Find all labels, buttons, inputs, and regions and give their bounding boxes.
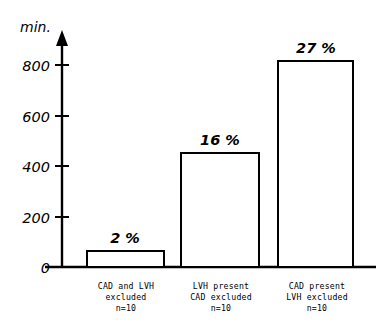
chart-container: min. 800 600 400 200 0 2 % CAD and LVH e… bbox=[0, 0, 391, 332]
y-axis-title: min. bbox=[20, 19, 51, 35]
bar-3-category-line-3: n=10 bbox=[307, 303, 328, 313]
bar-2-category-line-3: n=10 bbox=[211, 303, 232, 313]
y-tick-label-800: 800 bbox=[22, 58, 50, 74]
y-tick-label-400: 400 bbox=[22, 159, 50, 175]
bar-3-category-line-1: CAD present bbox=[289, 281, 345, 291]
y-axis-arrow-icon bbox=[56, 30, 68, 46]
bar-1-category-line-1: CAD and LVH bbox=[98, 281, 154, 291]
bar-1 bbox=[87, 251, 164, 267]
bar-3 bbox=[278, 61, 353, 267]
bar-chart: min. 800 600 400 200 0 2 % CAD and LVH e… bbox=[0, 0, 391, 332]
bar-2-category-line-2: CAD excluded bbox=[190, 292, 252, 302]
y-tick-label-0: 0 bbox=[41, 260, 50, 276]
bar-1-category-line-2: excluded bbox=[105, 292, 146, 302]
y-tick-label-200: 200 bbox=[22, 210, 50, 226]
y-tick-label-600: 600 bbox=[22, 109, 50, 125]
bar-1-category-line-3: n=10 bbox=[116, 303, 137, 313]
bar-3-category-line-2: LVH excluded bbox=[286, 292, 348, 302]
bar-2 bbox=[181, 153, 259, 267]
bar-2-category-line-1: LVH present bbox=[193, 281, 249, 291]
bar-2-value-label: 16 % bbox=[200, 132, 240, 148]
bar-1-value-label: 2 % bbox=[110, 230, 140, 246]
bar-3-value-label: 27 % bbox=[296, 40, 336, 56]
